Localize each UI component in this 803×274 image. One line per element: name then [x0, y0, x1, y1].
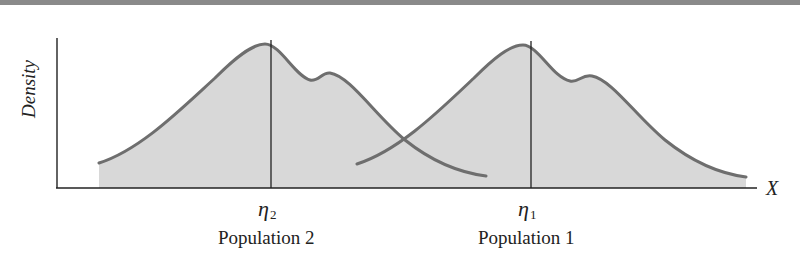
eta-symbol: η [258, 196, 269, 221]
median-label-population-1: η1 [518, 196, 536, 223]
eta-subscript: 2 [270, 207, 277, 222]
eta-subscript: 1 [530, 207, 537, 222]
y-axis-label: Density [18, 60, 40, 118]
population-2-label: Population 2 [218, 227, 315, 249]
eta-symbol: η [518, 196, 529, 221]
population-1-label: Population 1 [478, 227, 575, 249]
median-label-population-2: η2 [258, 196, 276, 223]
x-axis-label: X [766, 177, 778, 200]
density-plot [0, 0, 803, 274]
